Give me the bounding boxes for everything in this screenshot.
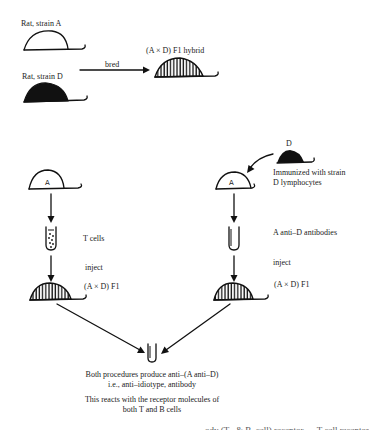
diagram-canvas [0,0,382,434]
t-cells-label: T cells [83,234,104,243]
immunized-line1: Immunized with strain [273,168,345,177]
inject-label-right: inject [273,258,291,267]
test-tube-cells-icon [46,227,56,250]
rat-strain-a-icon [24,31,85,50]
rat-strain-d-donor-icon [277,150,314,163]
rat-strain-a-left-icon [29,170,82,189]
strain-a-label: Rat, strain A [21,19,61,28]
result-line1: Both procedures produce anti–(A anti–D) [52,370,252,379]
result-line4: both T and B cells [52,405,252,414]
rat-hybrid-left-icon [30,283,86,300]
down-arrow [48,256,55,282]
rat-hybrid-icon [155,58,218,77]
donor-d-label: D [286,139,292,148]
inject-label-left: inject [85,263,103,272]
rat-strain-d-icon [24,83,87,102]
converge-arrow-left [57,304,145,353]
down-arrow [231,194,238,223]
rat-strain-a-right-icon [216,172,255,189]
hybrid-label: (A × D) F1 hybrid [146,46,204,55]
down-arrow [48,194,55,223]
bred-label: bred [105,60,119,69]
result-line2: i.e., anti–idiotype, antibody [52,380,252,389]
converge-arrow-right [161,304,230,354]
rat-hybrid-right-icon [214,283,268,300]
test-tube-icon [229,227,239,250]
rat-letter-left: A [45,179,50,188]
f1-label-left: (A × D) F1 [84,282,119,291]
antibodies-label: A anti–D antibodies [273,228,337,237]
down-arrow [231,256,238,282]
strain-d-label: Rat, strain D [22,72,63,81]
f1-label-right: (A × D) F1 [274,280,309,289]
rat-letter-right: A [229,179,234,188]
result-line3: This reacts with the receptor molecules … [52,395,252,404]
immunize-arrow [247,154,273,173]
immunized-line2: D lymphocytes [273,178,322,187]
test-tube-result-icon [148,344,156,362]
